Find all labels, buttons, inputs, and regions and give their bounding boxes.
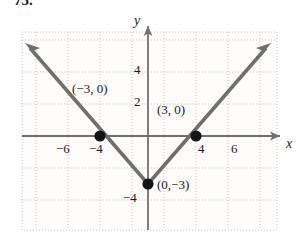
annotation-point-0-neg3: (0,−3): [157, 177, 189, 193]
math-figure: 73.: [0, 0, 305, 243]
x-tick-label-6: 6: [231, 141, 238, 157]
y-tick-label-2: 2: [134, 94, 141, 110]
y-tick-label-neg4: −4: [123, 190, 137, 206]
x-tick-label-neg6: −6: [56, 141, 70, 157]
x-tick-label-neg4: −4: [89, 141, 103, 157]
y-axis-label: y: [134, 13, 140, 29]
x-axis-label: x: [286, 136, 292, 152]
point-marker-3-0: [190, 130, 201, 141]
y-tick-label-4: 4: [134, 62, 141, 78]
annotation-point-3-0: (3, 0): [157, 102, 185, 118]
point-marker-0-neg3: [142, 178, 153, 189]
annotation-point-neg3-0: (−3, 0): [72, 81, 108, 97]
x-tick-label-4: 4: [198, 141, 205, 157]
point-marker-neg3-0: [94, 130, 105, 141]
coordinate-plane-plot: [0, 0, 305, 243]
